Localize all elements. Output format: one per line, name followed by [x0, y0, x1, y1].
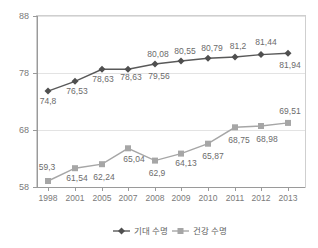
x-axis-label-2013: 2013 — [279, 193, 298, 203]
value-label-expectancy-2013: 81,44 — [255, 37, 277, 47]
value-label-expectancy-2012: 81,2 — [230, 41, 247, 51]
value-label-healthy-2009: 64,13 — [175, 158, 197, 168]
data-point-expectancy-2008 — [152, 61, 159, 68]
data-point-healthy-2009 — [178, 151, 184, 157]
value-label-expectancy-1998: 74,8 — [40, 96, 57, 106]
data-point-healthy-2010 — [205, 141, 211, 147]
value-label-healthy-2007: 65,04 — [123, 154, 145, 164]
legend-label-healthy: 건강 수명 — [193, 226, 227, 236]
value-label-healthy-2013: 69,51 — [279, 106, 301, 116]
value-label-expectancy-2001: 76,53 — [66, 86, 88, 96]
value-label-expectancy-2009: 80,08 — [147, 49, 169, 59]
y-axis-label-58: 58 — [19, 182, 29, 192]
data-point-expectancy-2013 — [285, 50, 292, 57]
value-label-healthy-2005: 62,24 — [93, 172, 115, 182]
data-point-expectancy-2005 — [99, 66, 106, 73]
data-point-healthy-2013 — [285, 120, 291, 126]
x-axis-label-2001: 2001 — [66, 193, 85, 203]
data-point-healthy-2001 — [72, 165, 78, 171]
value-label-expectancy-2005: 78,63 — [92, 74, 114, 84]
legend-diamond-marker-icon — [118, 228, 125, 235]
y-axis-label-78: 78 — [19, 68, 29, 78]
data-point-healthy-2012 — [258, 123, 264, 129]
value-labels-healthy: 59,3 61,54 62,24 65,04 62,9 64,13 65,87 … — [39, 106, 301, 183]
value-label-expectancy-2008: 79,56 — [148, 71, 170, 81]
legend-label-expectancy: 기대 수명 — [134, 226, 168, 236]
y-axis-label-68: 68 — [19, 125, 29, 135]
x-axis-label-2012: 2012 — [252, 193, 271, 203]
data-point-healthy-2011 — [232, 124, 238, 130]
data-point-expectancy-2001 — [72, 78, 79, 85]
data-point-healthy-2007 — [125, 145, 131, 151]
value-label-healthy-2010: 65,87 — [202, 151, 224, 161]
data-point-healthy-2005 — [99, 161, 105, 167]
data-point-expectancy-2011 — [232, 54, 239, 61]
x-axis-label-2008: 2008 — [146, 193, 165, 203]
value-label-healthy-1998: 59,3 — [39, 162, 56, 172]
value-label-healthy-2001: 61,54 — [66, 173, 88, 183]
value-labels-expectancy: 74,8 76,53 78,63 78,63 79,56 80,08 80,55… — [40, 37, 301, 106]
x-axis-label-1998: 1998 — [39, 193, 58, 203]
legend-square-marker-icon — [178, 228, 184, 234]
value-label-healthy-2012: 68,98 — [256, 134, 278, 144]
x-axis-label-2010: 2010 — [199, 193, 218, 203]
chart-container: 88 78 68 58 1998 2001 2005 2007 2008 200… — [0, 0, 318, 248]
value-label-expectancy-last: 81,94 — [279, 60, 301, 70]
legend-item-healthy[interactable]: 건강 수명 — [172, 226, 227, 236]
value-label-expectancy-2007: 78,63 — [120, 72, 142, 82]
x-axis-label-2009: 2009 — [172, 193, 191, 203]
value-label-expectancy-2011: 80,79 — [201, 43, 223, 53]
legend-item-expectancy[interactable]: 기대 수명 — [113, 226, 168, 236]
line-chart: 88 78 68 58 1998 2001 2005 2007 2008 200… — [0, 0, 318, 248]
data-point-healthy-2008 — [152, 158, 158, 164]
x-axis-label-2007: 2007 — [119, 193, 138, 203]
x-axis-label-2005: 2005 — [93, 193, 112, 203]
data-point-expectancy-2010 — [205, 55, 212, 62]
value-label-healthy-2011: 68,75 — [228, 135, 250, 145]
data-point-expectancy-2009 — [178, 58, 185, 65]
data-point-healthy-1998 — [45, 178, 51, 184]
x-axis-label-2011: 2011 — [226, 193, 245, 203]
data-point-expectancy-2012 — [258, 51, 265, 58]
value-label-healthy-2008: 62,9 — [149, 168, 166, 178]
y-axis-label-88: 88 — [19, 11, 29, 21]
chart-legend: 기대 수명 건강 수명 — [113, 226, 227, 236]
value-label-expectancy-2010: 80,55 — [174, 46, 196, 56]
data-point-expectancy-1998 — [45, 88, 52, 95]
